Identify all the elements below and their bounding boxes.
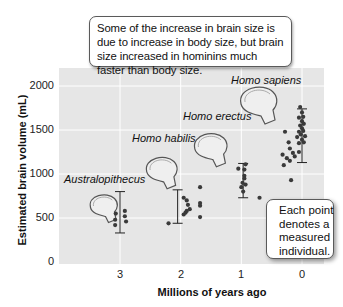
data-point [257, 196, 261, 200]
data-point [166, 221, 170, 225]
data-point [243, 182, 247, 186]
species-label-homo-sapiens: Homo sapiens [231, 74, 301, 86]
data-point [242, 176, 246, 180]
data-point [301, 115, 305, 119]
data-point [289, 178, 293, 182]
data-point [303, 134, 307, 138]
x-tick-label: 1 [231, 268, 251, 280]
x-tick-label: 0 [292, 268, 312, 280]
callout-line: denotes a [279, 218, 330, 232]
data-point [280, 153, 284, 157]
data-point [297, 116, 301, 120]
x-tick-label: 2 [171, 268, 191, 280]
y-tick-label: 0 [24, 255, 54, 267]
data-point [123, 209, 127, 213]
data-point [198, 185, 202, 189]
y-tick-label: 2000 [24, 79, 54, 91]
callout-line: individual. [279, 245, 330, 259]
data-point [198, 215, 202, 219]
species-label-homo-erectus: Homo erectus [183, 110, 251, 122]
data-point [113, 223, 117, 227]
data-point [288, 159, 292, 163]
annotation-callout-top: Some of the increase in brain size is du… [89, 16, 292, 67]
data-point [298, 105, 302, 109]
data-point [242, 168, 246, 172]
data-point [295, 135, 299, 139]
data-point [114, 212, 118, 216]
callout-line: measured [279, 231, 330, 245]
species-label-australopithecus: Australopithecus [64, 173, 145, 185]
data-point [297, 141, 301, 145]
y-tick-label: 1000 [24, 167, 54, 179]
data-point [198, 204, 202, 208]
data-point [241, 190, 245, 194]
annotation-callout-legend: Each point denotes a measured individual… [266, 199, 334, 259]
data-point [302, 122, 306, 126]
data-point [185, 198, 189, 202]
data-point [302, 140, 306, 144]
data-point [282, 163, 286, 167]
data-point [186, 203, 190, 207]
y-tick-label: 500 [24, 211, 54, 223]
data-point [300, 110, 304, 114]
data-point [243, 162, 247, 166]
data-point [124, 219, 128, 223]
data-point [287, 140, 291, 144]
data-point [301, 129, 305, 133]
callout-line: Each point [279, 204, 330, 218]
data-point [299, 132, 303, 136]
x-tick-label: 3 [110, 268, 130, 280]
data-point [288, 146, 292, 150]
data-point [123, 214, 127, 218]
data-point [183, 211, 187, 215]
data-point [283, 130, 287, 134]
data-point [236, 167, 240, 171]
x-axis-label: Millions of years ago [158, 286, 267, 298]
data-point [297, 150, 301, 154]
species-label-homo-habilis: Homo habilis [132, 132, 196, 144]
data-point [239, 185, 243, 189]
data-point [293, 154, 297, 158]
y-tick-label: 1500 [24, 123, 54, 135]
data-point [113, 218, 117, 222]
